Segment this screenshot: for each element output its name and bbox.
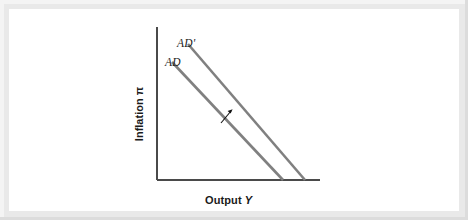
ad-prime-curve <box>188 44 305 180</box>
ad-prime-curve-label: AD' <box>177 37 195 49</box>
ad-shift-diagram-svg <box>9 9 459 211</box>
x-axis-label: Output Y <box>205 194 252 206</box>
frame-highlight-left <box>0 0 4 220</box>
ad-curve <box>172 62 283 180</box>
x-axis-label-text: Output <box>205 194 245 206</box>
y-axis-label-wrap: Inflation π <box>131 69 147 159</box>
frame-shadow-bottom <box>0 217 468 220</box>
frame-highlight-top <box>0 0 468 4</box>
figure-canvas: Inflation π Output Y AD' AD <box>0 0 468 220</box>
x-axis-label-variable: Y <box>245 194 252 206</box>
chart-plot-area: Inflation π Output Y AD' AD <box>9 9 459 211</box>
y-axis-label: Inflation π <box>133 87 145 141</box>
ad-curve-label: AD <box>165 56 181 68</box>
